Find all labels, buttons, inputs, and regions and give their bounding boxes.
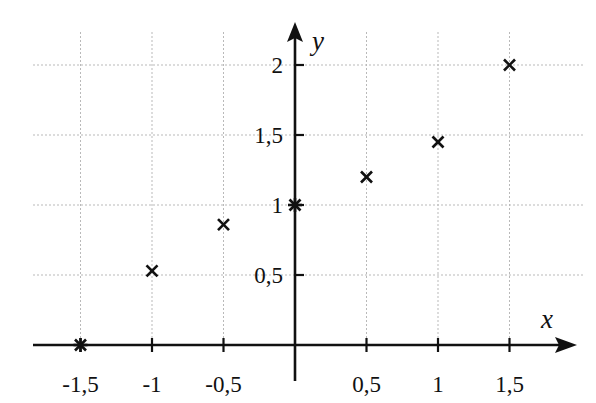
x-tick-label: -1,5 — [62, 372, 98, 397]
axes — [33, 22, 577, 381]
y-tick-label: 1,5 — [254, 123, 283, 148]
y-tick-label: 1 — [272, 193, 284, 218]
y-tick-label: 0,5 — [254, 263, 283, 288]
x-tick-label: -0,5 — [205, 372, 241, 397]
data-point-marker — [288, 198, 302, 212]
y-tick-label: 2 — [272, 53, 284, 78]
x-tick-label: -1 — [142, 372, 161, 397]
grid-lines — [33, 32, 585, 345]
x-tick-label: 1 — [432, 372, 444, 397]
y-axis-title: y — [309, 26, 324, 56]
x-axis-title: x — [540, 304, 553, 334]
scatter-chart: -1,5-1-0,50,511,50,511,52 x y — [0, 0, 596, 403]
x-tick-label: 1,5 — [495, 372, 524, 397]
x-tick-label: 0,5 — [352, 372, 381, 397]
data-point-marker — [74, 338, 88, 352]
data-point-marker — [147, 265, 158, 276]
